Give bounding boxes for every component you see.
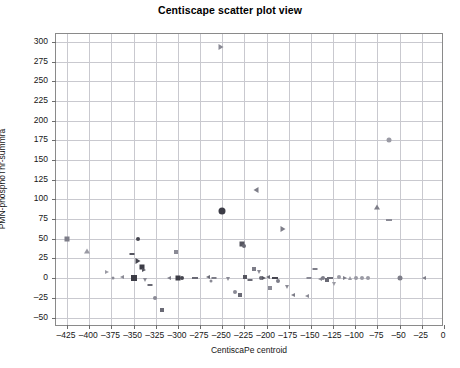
data-point[interactable] (387, 137, 392, 142)
scatter-plot-figure: Centiscape scatter plot view PMN-phospho… (0, 0, 460, 368)
data-point[interactable] (153, 296, 157, 300)
y-axis-tick-label: 175 (6, 134, 48, 144)
data-point[interactable] (257, 270, 261, 274)
gridline-horizontal (56, 140, 442, 141)
data-point[interactable] (276, 279, 280, 283)
x-axis-tick (244, 325, 245, 329)
data-point[interactable] (129, 253, 134, 255)
data-point[interactable] (143, 278, 147, 282)
data-point[interactable] (65, 236, 70, 241)
x-axis-tick (355, 325, 356, 329)
data-point[interactable] (285, 285, 289, 289)
data-point[interactable] (397, 276, 402, 281)
data-point[interactable] (148, 284, 153, 286)
data-point[interactable] (307, 277, 312, 279)
data-point[interactable] (332, 282, 336, 286)
data-point[interactable] (291, 293, 295, 297)
data-point[interactable] (84, 248, 90, 253)
x-axis-tick (444, 325, 445, 329)
plot-area[interactable] (55, 33, 443, 326)
data-point[interactable] (374, 205, 380, 210)
data-point[interactable] (360, 276, 364, 280)
data-point[interactable] (252, 267, 256, 271)
data-point[interactable] (337, 275, 341, 279)
y-axis-tick-label: 75 (6, 213, 48, 223)
gridline-horizontal (56, 258, 442, 259)
data-point[interactable] (253, 187, 258, 193)
data-point[interactable] (313, 268, 318, 270)
y-axis-tick-label: 200 (6, 115, 48, 125)
x-axis-tick (400, 325, 401, 329)
data-point[interactable] (120, 275, 124, 279)
x-axis-title: CentiscaPe centroid (55, 345, 443, 355)
x-axis-tick (200, 325, 201, 329)
data-point[interactable] (327, 277, 333, 279)
gridline-horizontal (56, 318, 442, 319)
y-axis-tick-label: 275 (6, 56, 48, 66)
y-axis-tick-label: –50 (6, 312, 48, 322)
x-axis-tick (422, 325, 423, 329)
data-point[interactable] (160, 308, 164, 312)
y-axis-tick (52, 121, 56, 122)
data-point[interactable] (348, 276, 352, 280)
x-axis-tick (222, 325, 223, 329)
y-axis-tick-label: –25 (6, 292, 48, 302)
y-axis-tick (52, 199, 56, 200)
data-point[interactable] (142, 268, 146, 272)
data-point[interactable] (226, 277, 230, 281)
y-axis-tick (52, 298, 56, 299)
data-point[interactable] (131, 275, 137, 281)
y-axis-tick-label: 100 (6, 193, 48, 203)
data-point[interactable] (366, 276, 370, 280)
data-point[interactable] (233, 290, 237, 294)
data-point[interactable] (180, 276, 184, 280)
data-point[interactable] (112, 277, 115, 280)
y-axis-tick (52, 278, 56, 279)
x-axis-tick (156, 325, 157, 329)
data-point[interactable] (206, 275, 210, 279)
y-axis-tick (52, 258, 56, 259)
y-axis-tick (52, 318, 56, 319)
data-point[interactable] (280, 226, 285, 232)
y-axis-tick (52, 160, 56, 161)
y-axis-tick-label: 150 (6, 154, 48, 164)
x-axis-tick-label: 0 (423, 330, 460, 340)
x-axis-tick (111, 325, 112, 329)
data-point[interactable] (268, 286, 272, 290)
y-axis-tick (52, 239, 56, 240)
y-axis-tick-label: 125 (6, 174, 48, 184)
data-point[interactable] (212, 277, 217, 279)
data-point[interactable] (167, 276, 171, 280)
data-point[interactable] (218, 44, 223, 50)
x-axis-tick (178, 325, 179, 329)
gridline-horizontal (56, 42, 442, 43)
data-point[interactable] (354, 276, 358, 280)
gridline-horizontal (56, 81, 442, 82)
data-point[interactable] (247, 279, 252, 281)
data-point[interactable] (209, 279, 212, 282)
y-axis-tick-label: 25 (6, 252, 48, 262)
data-point[interactable] (422, 276, 426, 280)
y-axis-tick-label: 50 (6, 233, 48, 243)
data-point[interactable] (242, 244, 246, 248)
data-point[interactable] (305, 294, 309, 298)
y-axis-tick (52, 81, 56, 82)
data-point[interactable] (266, 275, 270, 279)
data-point[interactable] (174, 250, 178, 254)
y-axis-tick (52, 140, 56, 141)
y-axis-tick-label: 225 (6, 95, 48, 105)
data-point[interactable] (136, 237, 140, 241)
gridline-horizontal (56, 121, 442, 122)
data-point[interactable] (238, 293, 242, 297)
data-point[interactable] (386, 219, 392, 221)
data-point[interactable] (192, 277, 198, 279)
gridline-horizontal (56, 160, 442, 161)
data-point[interactable] (343, 276, 347, 280)
data-point[interactable] (105, 270, 109, 274)
data-point[interactable] (219, 208, 226, 215)
x-axis-tick (134, 325, 135, 329)
y-axis-tick (52, 101, 56, 102)
x-axis-tick (67, 325, 68, 329)
y-axis-tick (52, 219, 56, 220)
data-point[interactable] (136, 258, 141, 264)
